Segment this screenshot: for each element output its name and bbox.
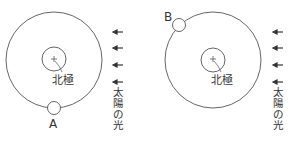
arrow-left-icon <box>273 63 283 67</box>
moon-b-label: B <box>164 10 172 24</box>
arrow-left-icon <box>273 46 283 50</box>
north-pole-label: 北極 <box>211 73 233 87</box>
moon-a <box>48 102 61 115</box>
north-pole-plus-icon <box>51 56 57 62</box>
arrow-left-icon <box>113 80 123 84</box>
arrow-left-icon <box>113 63 123 67</box>
moon-a-label: A <box>49 117 58 131</box>
diagram-left: 北極 A 太 陽 の 光 <box>6 12 124 131</box>
arrow-left-icon <box>113 46 123 50</box>
moon-orbit-diagrams: 北極 A 太 陽 の 光 北極 B <box>0 0 291 143</box>
moon-b <box>173 19 186 32</box>
svg-text:光: 光 <box>113 119 124 131</box>
pole-leader-line <box>214 61 221 72</box>
svg-text:光: 光 <box>273 119 284 131</box>
sunlight-arrows <box>113 30 123 84</box>
sunlight-label: 太 陽 の 光 <box>273 86 284 131</box>
north-pole-label: 北極 <box>52 73 74 87</box>
sunlight-arrows <box>273 30 283 84</box>
sunlight-label: 太 陽 の 光 <box>113 86 124 131</box>
diagram-right: 北極 B 太 陽 の 光 <box>164 10 284 131</box>
arrow-left-icon <box>273 30 283 34</box>
arrow-left-icon <box>113 30 123 34</box>
arrow-left-icon <box>273 80 283 84</box>
north-pole-plus-icon <box>210 56 216 62</box>
